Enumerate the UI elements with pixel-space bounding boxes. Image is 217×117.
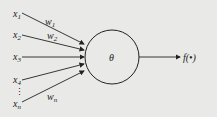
neuron-diagram: x1 x2 x3 x4 ⋮ xn w1 w2 wn θ f(•) <box>0 0 217 117</box>
arrow-x4 <box>22 64 84 80</box>
output-label: f(•) <box>183 52 197 64</box>
input-xn: xn <box>12 98 21 111</box>
weight-wn: wn <box>47 91 58 104</box>
input-x3: x3 <box>12 51 21 64</box>
input-x1: x1 <box>12 8 21 21</box>
input-x2: x2 <box>12 29 21 42</box>
weight-labels: w1 w2 wn <box>45 16 58 104</box>
input-x4: x4 <box>12 74 21 87</box>
ellipsis: ⋮ <box>15 87 24 97</box>
input-labels: x1 x2 x3 x4 ⋮ xn <box>12 8 24 111</box>
theta-label: θ <box>109 52 114 63</box>
